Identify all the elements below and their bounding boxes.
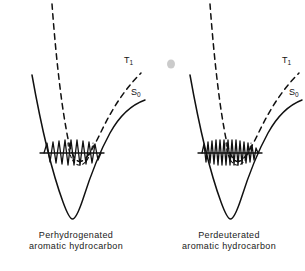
curve-label-s0-perhydrogenated: S0 <box>131 87 141 97</box>
caption-perdeuterated: Perdeuterated aromatic hydrocarbon <box>153 230 305 252</box>
caption-perhydrogenated-line1: Perhydrogenated <box>0 230 152 241</box>
caption-perhydrogenated-line2: aromatic hydrocarbon <box>0 241 152 252</box>
caption-perhydrogenated: Perhydrogenated aromatic hydrocarbon <box>0 230 152 252</box>
curve-label-t1-perhydrogenated: T1 <box>124 55 133 65</box>
curve-label-s0-perdeuterated: S0 <box>289 87 299 97</box>
caption-perdeuterated-line1: Perdeuterated <box>153 230 305 241</box>
caption-perdeuterated-line2: aromatic hydrocarbon <box>153 241 305 252</box>
scan-artifact-speck <box>167 60 175 69</box>
curve-label-t1-perdeuterated: T1 <box>282 55 291 65</box>
